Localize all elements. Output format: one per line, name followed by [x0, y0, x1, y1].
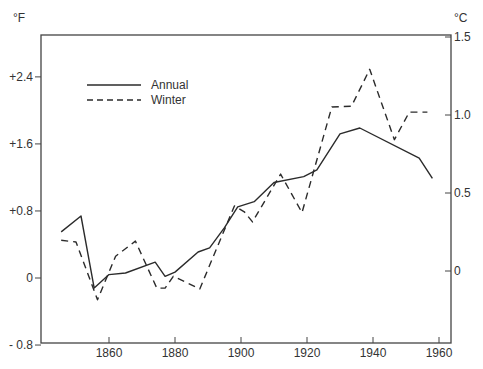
- series-annual-line: [61, 128, 432, 288]
- plot-border: [41, 35, 451, 343]
- temperature-chart: - 0.80+0.8+1.6+2.4 00.51.01.5 1860188019…: [0, 0, 483, 369]
- legend-label-annual: Annual: [151, 78, 188, 92]
- x-tick-label: 1940: [360, 346, 387, 360]
- right-tick-label: 1.5: [454, 30, 471, 44]
- x-tick-label: 1900: [228, 346, 255, 360]
- left-tick-label: +0.8: [9, 204, 33, 218]
- x-axis-years: 186018801900192019401960: [96, 337, 453, 360]
- legend: AnnualWinter: [87, 78, 188, 107]
- x-tick-label: 1960: [426, 346, 453, 360]
- right-tick-label: 1.0: [454, 108, 471, 122]
- left-tick-label: - 0.8: [9, 338, 33, 352]
- left-unit-label: °F: [13, 11, 25, 25]
- x-tick-label: 1880: [162, 346, 189, 360]
- right-tick-label: 0.5: [454, 186, 471, 200]
- left-tick-label: +2.4: [9, 70, 33, 84]
- legend-label-winter: Winter: [151, 93, 186, 107]
- left-tick-label: 0: [26, 271, 33, 285]
- left-axis-fahrenheit: - 0.80+0.8+1.6+2.4: [9, 70, 41, 352]
- data-series: [61, 69, 432, 299]
- right-axis-celsius: 00.51.01.5: [445, 30, 471, 278]
- right-unit-label: °C: [454, 11, 468, 25]
- x-tick-label: 1920: [294, 346, 321, 360]
- x-tick-label: 1860: [96, 346, 123, 360]
- plot-frame: [41, 35, 451, 343]
- left-tick-label: +1.6: [9, 137, 33, 151]
- series-winter-line: [61, 69, 427, 299]
- right-tick-label: 0: [454, 264, 461, 278]
